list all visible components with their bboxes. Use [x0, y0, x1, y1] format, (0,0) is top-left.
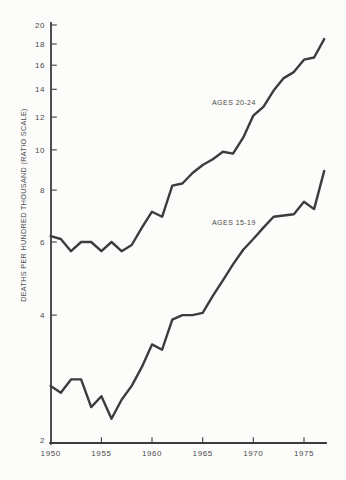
y-tick-label-14: 14 [35, 85, 45, 94]
y-tick-label-12: 12 [35, 113, 45, 122]
y-tick-label-18: 18 [35, 40, 45, 49]
y-axis-title: DEATHS PER HUNDRED THOUSAND (RATIO SCALE… [19, 108, 28, 302]
y-tick-label-10: 10 [35, 146, 45, 155]
y-tick-label-2: 2 [40, 436, 45, 445]
y-tick-label-4: 4 [40, 311, 45, 320]
x-tick-label-1975: 1975 [294, 449, 314, 458]
x-tick-label-1950: 1950 [41, 449, 61, 458]
death-rate-line-chart: DEATHS PER HUNDRED THOUSAND (RATIO SCALE… [0, 0, 346, 480]
x-tick-label-1965: 1965 [193, 449, 213, 458]
x-tick-label-1955: 1955 [91, 449, 111, 458]
chart-page: DEATHS PER HUNDRED THOUSAND (RATIO SCALE… [0, 0, 346, 480]
y-tick-label-6: 6 [40, 238, 45, 247]
y-tick-label-8: 8 [40, 186, 45, 195]
x-tick-label-1960: 1960 [142, 449, 162, 458]
series-line-ages-15-19 [51, 171, 325, 419]
series-line-ages-20-24 [51, 39, 325, 251]
axes: 2018161412108642195019551960196519701975 [35, 21, 326, 458]
y-tick-label-16: 16 [35, 61, 45, 70]
series-label-ages-15-19: AGES 15-19 [212, 219, 256, 226]
series-lines [51, 39, 325, 419]
series-label-ages-20-24: AGES 20-24 [212, 99, 256, 106]
x-tick-label-1970: 1970 [243, 449, 263, 458]
y-tick-label-20: 20 [35, 21, 45, 30]
